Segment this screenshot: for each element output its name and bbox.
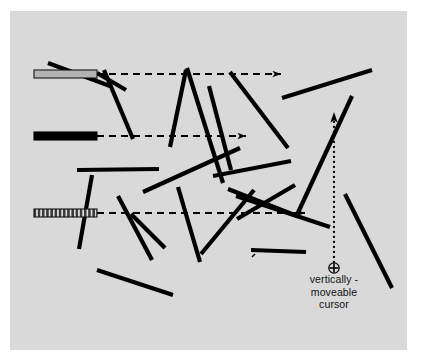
line-segments-group [48,63,392,295]
guide-dot [333,206,335,208]
guide-dot [333,161,335,163]
guide-dot [333,196,335,198]
segment-24 [201,190,254,254]
segment-16 [178,187,200,262]
segment-03 [104,70,133,139]
segment-12 [296,96,352,217]
guide-dot [333,246,335,248]
cursor-group[interactable] [329,263,339,273]
guide-dot [333,151,335,153]
caption-line-1: vertically - [288,273,380,286]
guide-dot [333,126,335,128]
segment-09 [77,169,159,170]
segment-21 [97,270,173,295]
bar-outlined-gray [34,70,97,78]
guide-dot [333,226,335,228]
guide-dot [333,231,335,233]
segment-11 [213,161,291,176]
bar-solid-black [34,132,97,140]
guide-dot [333,121,335,123]
guide-dot [333,186,335,188]
guide-dot [333,171,335,173]
guide-dot [333,251,335,253]
bar-striped [34,209,97,217]
guide-dot [333,236,335,238]
guide-dot [333,146,335,148]
guide-dot [333,181,335,183]
dashed-arrows-group [97,74,305,213]
guide-dot [333,201,335,203]
segment-07 [230,72,288,148]
guide-dot [333,211,335,213]
guide-dot [333,131,335,133]
cursor-caption: vertically - moveable cursor [288,273,380,311]
segment-08 [282,70,372,98]
guide-dot [333,256,335,258]
figure-root: vertically - moveable cursor [0,0,423,364]
guide-dot [333,241,335,243]
guide-dot [333,156,335,158]
guide-dot [333,191,335,193]
guide-dot [333,166,335,168]
caption-line-2: moveable [288,286,380,299]
guide-dot [333,141,335,143]
caption-line-3: cursor [288,298,380,311]
guide-dot [333,216,335,218]
guide-dot [333,136,335,138]
guide-dot [333,221,335,223]
guide-dot [333,176,335,178]
segment-23 [251,250,306,252]
segment-22 [253,255,254,256]
